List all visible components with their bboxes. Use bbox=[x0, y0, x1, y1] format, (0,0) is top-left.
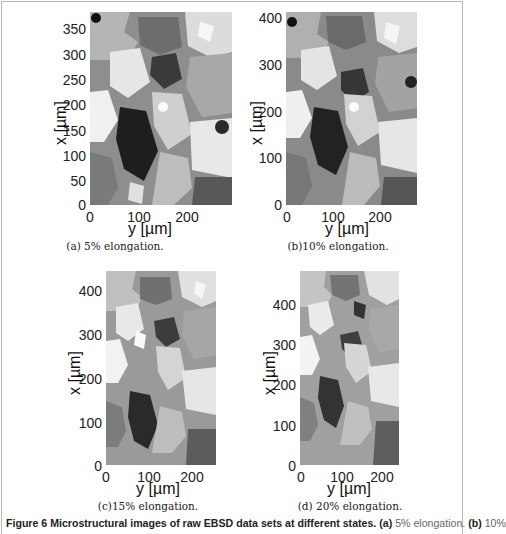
ytick: 0 bbox=[248, 198, 282, 212]
x-axis-label: y [µm] bbox=[128, 221, 172, 237]
ytick: 0 bbox=[52, 198, 86, 212]
subcaption-d: (d) 20% elongation. bbox=[298, 500, 403, 512]
ytick: 100 bbox=[68, 416, 102, 430]
xtick: 0 bbox=[297, 470, 305, 484]
ytick: 0 bbox=[262, 459, 296, 473]
ebsd-map-d bbox=[300, 271, 399, 465]
caption-label-a: (a) bbox=[379, 517, 392, 529]
ytick: 100 bbox=[262, 419, 296, 433]
grain-texture-b bbox=[286, 12, 417, 205]
ebsd-map-a bbox=[90, 12, 232, 205]
xtick: 200 bbox=[175, 210, 198, 224]
x-axis-label: y [µm] bbox=[136, 481, 180, 497]
ytick: 50 bbox=[52, 174, 86, 188]
ytick: 300 bbox=[262, 338, 296, 352]
ytick: 400 bbox=[262, 298, 296, 312]
ytick: 300 bbox=[52, 48, 86, 62]
figure-caption: Figure 6 Microstructural images of raw E… bbox=[6, 517, 506, 529]
xtick: 0 bbox=[102, 470, 110, 484]
ebsd-map-b bbox=[286, 12, 417, 205]
y-axis-label: x [µm] bbox=[53, 101, 69, 145]
y-axis-label: x [µm] bbox=[249, 101, 265, 145]
grain-texture-d bbox=[300, 271, 399, 465]
xtick: 0 bbox=[86, 210, 94, 224]
grain-texture-c bbox=[106, 271, 216, 465]
subcaption-b: (b)10% elongation. bbox=[287, 240, 388, 252]
y-axis-label: x [µm] bbox=[262, 351, 278, 395]
xtick: 200 bbox=[368, 210, 391, 224]
xtick: 0 bbox=[283, 210, 291, 224]
subcaption-c: (c)15% elongation. bbox=[98, 500, 198, 512]
subcaption-a: (a) 5% elongation. bbox=[66, 240, 163, 252]
ytick: 400 bbox=[248, 11, 282, 25]
ytick: 300 bbox=[68, 328, 102, 342]
caption-label-b: (b) bbox=[468, 517, 482, 529]
ebsd-map-c bbox=[106, 271, 216, 465]
x-axis-label: y [µm] bbox=[325, 221, 369, 237]
ytick: 400 bbox=[68, 284, 102, 298]
grain-texture-a bbox=[90, 12, 232, 205]
xtick: 200 bbox=[370, 470, 393, 484]
xtick: 200 bbox=[180, 470, 203, 484]
ytick: 100 bbox=[52, 149, 86, 163]
x-axis-label: y [µm] bbox=[327, 481, 371, 497]
ytick: 100 bbox=[248, 151, 282, 165]
caption-text-a: 5% elongation. bbox=[395, 517, 465, 529]
y-axis-label: x [µm] bbox=[67, 351, 83, 395]
ytick: 300 bbox=[248, 58, 282, 72]
ytick: 250 bbox=[52, 73, 86, 87]
caption-text-b: 10% bbox=[485, 517, 506, 529]
ytick: 350 bbox=[52, 22, 86, 36]
caption-title: Figure 6 Microstructural images of raw E… bbox=[6, 517, 376, 529]
ytick: 0 bbox=[68, 459, 102, 473]
